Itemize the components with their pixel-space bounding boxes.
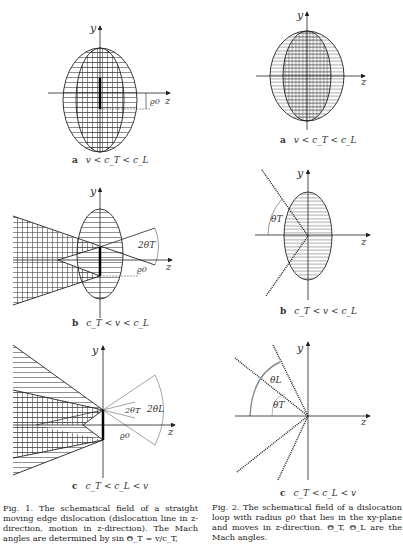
fig1-panel-a: y z ϱ0 (48, 22, 171, 152)
fig1a-y-label: y (89, 22, 97, 35)
svg-text:y: y (296, 9, 304, 22)
svg-text:θT: θT (273, 400, 285, 410)
fig2a-label: av < c_T < c_L (280, 135, 357, 145)
svg-text:y: y (89, 185, 97, 198)
svg-text:ϱ0: ϱ0 (137, 265, 147, 274)
svg-text:z: z (165, 261, 172, 272)
svg-text:z: z (167, 426, 174, 437)
fig1c-label: cc_T < c_L < v (72, 481, 148, 491)
fig1a-rho0: ϱ0 (150, 97, 160, 106)
svg-text:y: y (91, 344, 99, 357)
fig1a-label: av < c_T < c_L (72, 155, 149, 165)
svg-text:z: z (360, 416, 367, 427)
fig2-panel-c: y z θL θT (235, 342, 370, 480)
fig2b-label: bc_T < v < c_L (280, 306, 357, 316)
fig1-panel-c: y z 2θT 2θL ϱ0 (13, 344, 175, 478)
fig1-panel-b: y z 2θT ϱ0 (13, 185, 172, 318)
svg-text:θT: θT (271, 214, 283, 224)
fig1a-z-label: z (164, 95, 171, 106)
fig2c-label: cc_T < c_L < v (280, 488, 356, 498)
figure-canvas: y z ϱ0 y z 2θT ϱ0 (0, 0, 403, 549)
fig2-panel-b: y z θT (255, 167, 370, 300)
svg-text:z: z (360, 76, 367, 87)
fig1b-2thetaT: 2θT (137, 240, 156, 250)
svg-text:θL: θL (270, 375, 281, 385)
svg-text:y: y (296, 167, 304, 180)
fig2-caption: Fig. 2. The schematical field of a dislo… (212, 502, 402, 542)
fig1b-label: bc_T < v < c_L (72, 318, 149, 328)
svg-text:2θT: 2θT (124, 406, 141, 415)
svg-text:z: z (360, 236, 367, 247)
svg-text:y: y (296, 342, 304, 355)
fig2-panel-a: y z (256, 9, 367, 130)
fig1-caption: Fig. 1. The schematical field of a strai… (3, 503, 198, 543)
svg-text:2θL: 2θL (146, 404, 164, 414)
svg-text:ϱ0: ϱ0 (120, 431, 130, 440)
